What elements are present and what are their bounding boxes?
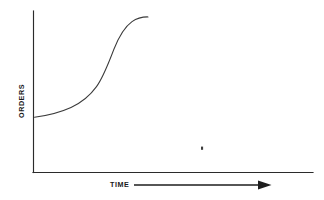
x-axis-label: TIME bbox=[110, 181, 129, 188]
chart-plot-area bbox=[0, 0, 324, 200]
stray-speck bbox=[201, 147, 203, 150]
orders-growth-curve bbox=[35, 17, 149, 117]
time-arrow-head bbox=[258, 181, 272, 190]
y-axis-label: ORDERS bbox=[18, 84, 25, 118]
chart-figure: ORDERS TIME bbox=[0, 0, 324, 200]
